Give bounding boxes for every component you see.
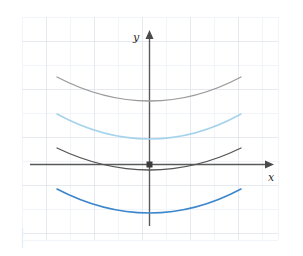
axes-layer xyxy=(30,30,274,226)
y-axis-label: y xyxy=(132,31,140,44)
parabola-family-plot: y x xyxy=(0,0,303,256)
graph-figure: y x xyxy=(0,0,303,256)
y-axis-arrow-icon xyxy=(146,30,154,39)
origin-point xyxy=(147,162,153,168)
grid-vertical-minor xyxy=(23,17,279,240)
grid-layer xyxy=(22,17,279,241)
x-axis-label: x xyxy=(268,171,275,184)
